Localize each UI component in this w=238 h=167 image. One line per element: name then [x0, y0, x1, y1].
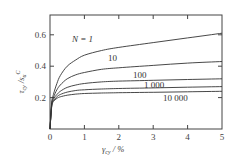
- y-tick-label-0.2: 0.2: [35, 93, 46, 103]
- y-tick-label-0.6: 0.6: [35, 30, 47, 40]
- y-axis-title: τcy /suC: [15, 69, 27, 93]
- x-tick-label-4: 4: [185, 132, 190, 142]
- curve-10000: [50, 91, 222, 129]
- x-tick-label-2: 2: [117, 132, 122, 142]
- curves: [50, 33, 222, 129]
- y-tick-label-0.4: 0.4: [35, 61, 47, 71]
- x-axis-title: γcy / %: [102, 144, 124, 155]
- x-tick-label-0: 0: [48, 132, 53, 142]
- x-tick-label-3: 3: [151, 132, 156, 142]
- x-tick-label-1: 1: [82, 132, 87, 142]
- curve-1000: [50, 87, 222, 129]
- chart: 0 1 2 3 4 5 0.2 0.4 0.6 γcy / % τcy /suC…: [0, 0, 238, 167]
- x-tick-label-5: 5: [220, 132, 225, 142]
- curve-100: [50, 79, 222, 129]
- curve-label-n10: 10: [108, 53, 118, 63]
- curve-label-n10000: 10 000: [163, 93, 188, 103]
- curve-label-n1000: 1 000: [144, 80, 165, 90]
- curve-label-n100: 100: [133, 70, 147, 80]
- curve-label-n1: N = 1: [71, 34, 93, 44]
